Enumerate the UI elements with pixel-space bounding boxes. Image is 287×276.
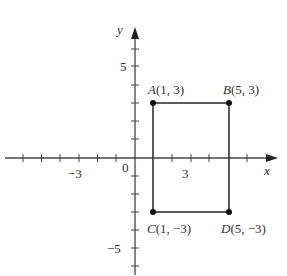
point-a-label: A(1, 3) xyxy=(147,82,184,97)
x-tick-label-neg3: −3 xyxy=(68,166,82,181)
coordinate-plane: y x 0 3 −3 5 −5 A(1, 3) B(5, 3) C(1, −3)… xyxy=(0,0,287,276)
point-b-label: B(5, 3) xyxy=(223,82,259,97)
point-b xyxy=(226,100,232,106)
point-d xyxy=(226,209,232,215)
origin-label: 0 xyxy=(122,160,129,175)
y-axis-arrow-icon xyxy=(131,27,139,39)
x-axis-arrow-icon xyxy=(266,154,278,162)
point-a xyxy=(150,100,156,106)
x-axis-label: x xyxy=(263,163,270,178)
y-tick-label-5: 5 xyxy=(120,59,127,74)
point-d-label: D(5, −3) xyxy=(220,221,266,236)
point-c xyxy=(150,209,156,215)
y-tick-label-neg5: −5 xyxy=(107,241,121,256)
y-axis-label: y xyxy=(115,22,123,37)
point-c-label: C(1, −3) xyxy=(147,221,191,236)
x-tick-label-3: 3 xyxy=(182,166,189,181)
